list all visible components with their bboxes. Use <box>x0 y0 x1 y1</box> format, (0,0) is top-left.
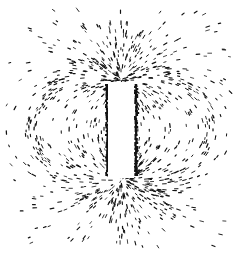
iron-filing <box>26 62 30 63</box>
iron-filing <box>135 188 137 189</box>
iron-filing <box>123 78 125 79</box>
iron-filing <box>130 78 134 79</box>
iron-filing <box>65 76 69 77</box>
iron-filing <box>220 115 221 117</box>
iron-filing <box>38 142 39 144</box>
iron-filing <box>62 79 65 80</box>
iron-filing <box>79 193 82 194</box>
magnet-edge-filing <box>135 122 138 124</box>
magnet-edge-filing <box>134 174 138 176</box>
magnet-edge-filing <box>105 112 108 114</box>
iron-filing <box>43 98 44 99</box>
iron-filing <box>67 118 68 120</box>
iron-filing <box>205 97 206 98</box>
iron-filing <box>154 67 156 68</box>
iron-filing <box>71 141 72 143</box>
iron-filing <box>70 63 74 64</box>
magnet-edge-filing <box>105 114 108 116</box>
iron-filing <box>144 189 146 190</box>
iron-filing <box>157 189 161 190</box>
iron-filing <box>28 237 30 238</box>
iron-filing <box>143 171 145 172</box>
magnet-edge-filing <box>134 142 138 144</box>
iron-filing <box>57 173 59 174</box>
magnet-edge-filing <box>106 96 108 98</box>
iron-filing <box>142 246 143 248</box>
magnet-edge-filing <box>135 114 138 116</box>
iron-filing <box>175 147 176 148</box>
iron-filing <box>83 83 85 84</box>
iron-filing <box>207 121 208 124</box>
iron-filing <box>75 193 78 194</box>
iron-filing <box>199 184 201 185</box>
magnet-edge-filing <box>105 104 107 106</box>
iron-filing <box>113 208 114 211</box>
iron-filing <box>198 176 200 177</box>
iron-filing <box>139 177 142 178</box>
iron-filing <box>30 120 31 124</box>
iron-filing <box>132 225 133 227</box>
magnet-edge-filing <box>134 166 137 168</box>
iron-filing <box>139 174 141 175</box>
magnet-edge-filing <box>134 116 137 118</box>
iron-filing <box>99 120 100 123</box>
iron-filing <box>162 191 165 192</box>
iron-filing <box>37 136 38 139</box>
iron-filing <box>146 141 147 144</box>
iron-filing <box>93 158 94 159</box>
iron-filing <box>137 34 138 36</box>
iron-filing <box>82 60 84 61</box>
iron-filing <box>139 137 140 140</box>
iron-filing <box>62 82 64 83</box>
iron-filing <box>147 71 149 72</box>
magnet-edge-filing <box>134 102 136 104</box>
iron-filing <box>168 175 170 176</box>
magnet-edge-filing <box>135 156 138 158</box>
magnet-edge-filing <box>105 172 107 174</box>
iron-filing <box>117 68 118 70</box>
magnet-edge-filing <box>134 86 137 88</box>
magnet-edge-filing <box>135 84 137 86</box>
iron-filing <box>114 54 115 57</box>
iron-filing <box>28 119 29 121</box>
iron-filing <box>166 35 167 36</box>
iron-filing <box>135 218 136 220</box>
iron-filing <box>165 179 169 180</box>
iron-filing <box>73 65 76 66</box>
iron-filing <box>165 209 167 210</box>
magnet-edge-filing <box>135 130 138 132</box>
magnet-edge-filing <box>105 100 107 102</box>
iron-filing <box>67 59 70 60</box>
iron-filing <box>177 59 180 60</box>
iron-filing <box>90 176 93 177</box>
iron-filing <box>53 81 55 82</box>
iron-filing <box>14 180 15 181</box>
magnet-edge-filing <box>135 128 137 130</box>
magnet-edge-filing <box>134 148 138 150</box>
magnet-edge-filing <box>106 90 108 92</box>
magnet-edge-filing <box>135 108 137 110</box>
iron-filing <box>84 84 87 85</box>
iron-filing <box>49 51 52 52</box>
magnet-edge-filing <box>135 136 137 138</box>
iron-filing <box>9 63 11 64</box>
iron-filing <box>45 99 46 100</box>
magnet-edge-filing <box>134 118 137 120</box>
magnet-edge-filing <box>134 144 136 146</box>
iron-filing <box>175 182 178 183</box>
magnet-edge-filing <box>106 130 108 132</box>
magnet-edge-filing <box>135 164 137 166</box>
magnet-edge-filing <box>135 162 137 164</box>
iron-filing <box>132 41 133 43</box>
iron-filing <box>163 67 165 68</box>
magnet-edge-filing <box>105 160 108 162</box>
iron-filing <box>30 31 32 32</box>
iron-filing <box>178 84 181 85</box>
magnet-edge-filing <box>105 174 108 176</box>
iron-filing <box>98 173 100 174</box>
magnet-edge-filing <box>106 126 108 128</box>
iron-filing <box>161 81 164 82</box>
magnet-edge-filing <box>134 160 138 162</box>
iron-filing <box>53 178 55 179</box>
iron-filing <box>50 175 52 176</box>
